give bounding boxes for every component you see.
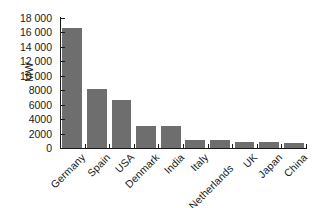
bar-slot [134,18,159,148]
bar-slot [183,18,208,148]
y-axis-tick [61,90,65,91]
y-axis-tick [61,105,65,106]
bar [136,126,156,148]
x-axis-tick [257,144,258,148]
bar-series [60,18,306,148]
bar-slot [158,18,183,148]
y-axis-tick-label: 8000 [29,84,52,96]
x-axis-tick [232,144,233,148]
bar [210,140,230,148]
x-axis-tick [134,144,135,148]
y-axis-tick-labels: 0200040006000800010 00012 00014 00016 00… [0,0,56,208]
x-axis-tick-label: Japan [255,151,284,180]
y-axis-tick [61,47,65,48]
bar-slot [281,18,306,148]
y-axis-tick-label: 16 000 [20,26,52,38]
bar [62,28,82,148]
y-axis-tick-label: 6000 [29,99,52,111]
bar-slot [208,18,233,148]
bar-slot [60,18,85,148]
x-axis-tick [306,144,307,148]
bar [185,140,205,148]
y-axis-tick [61,134,65,135]
x-axis-tick-label: Spain [84,151,112,179]
x-axis-tick [208,144,209,148]
x-axis-tick-label: China [281,151,309,179]
x-axis-tick [109,144,110,148]
x-axis-tick [85,144,86,148]
y-axis-tick-label: 10 000 [20,70,52,82]
bar-slot [109,18,134,148]
x-axis-tick [281,144,282,148]
bar [112,100,132,148]
y-axis-tick [61,18,65,19]
y-axis-tick-label: 18 000 [20,12,52,24]
y-axis-tick [61,119,65,120]
y-axis-tick-label: 2000 [29,128,52,140]
x-axis-tick-labels: GermanySpainUSADenmarkIndiaItalyNetherla… [60,148,306,208]
x-axis-tick [158,144,159,148]
bar-slot [257,18,282,148]
bar-chart: MW 0200040006000800010 00012 00014 00016… [0,0,330,208]
y-axis-tick [61,76,65,77]
y-axis-tick-label: 12 000 [20,55,52,67]
x-axis-tick-label: Italy [188,151,210,173]
bar-slot [232,18,257,148]
y-axis-tick [61,61,65,62]
y-axis-tick [61,148,65,149]
x-axis-tick-label: India [161,151,186,176]
bar [87,89,107,148]
x-axis-tick [183,144,184,148]
y-axis-tick [61,32,65,33]
x-axis-tick-label: UK [241,151,260,170]
y-axis-tick-label: 0 [46,142,52,154]
y-axis-tick-label: 4000 [29,113,52,125]
y-axis-tick-label: 14 000 [20,41,52,53]
bar-slot [85,18,110,148]
bar [161,126,181,148]
